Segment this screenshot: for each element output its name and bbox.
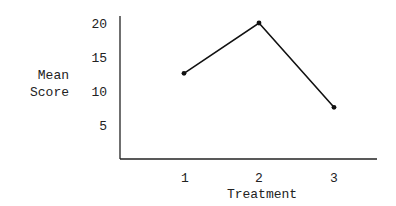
y-tick-label: 10 — [91, 85, 107, 100]
y-axis-label-line1: Mean — [38, 68, 69, 83]
y-axis-label-line2: Score — [30, 85, 69, 100]
data-markers — [182, 21, 337, 110]
data-point — [332, 105, 337, 110]
y-tick-label: 20 — [91, 17, 107, 32]
x-axis-label: Treatment — [227, 187, 297, 202]
x-tick-label: 2 — [255, 171, 263, 186]
data-point — [182, 71, 187, 76]
x-tick-label: 1 — [181, 171, 189, 186]
data-line — [184, 23, 334, 107]
line-chart: 20 15 10 5 Mean Score 1 2 3 Treatment — [0, 0, 396, 206]
data-point — [257, 21, 262, 26]
y-tick-label: 15 — [91, 51, 107, 66]
y-tick-label: 5 — [99, 119, 107, 134]
x-tick-label: 3 — [330, 171, 338, 186]
